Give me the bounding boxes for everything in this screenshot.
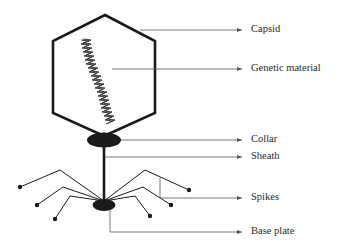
capsid-shape [53,15,155,136]
collar-shape [87,133,121,148]
label-collar: Collar [251,133,277,145]
bacteriophage-diagram [0,0,343,250]
label-base-plate: Base plate [251,225,294,237]
label-spikes: Spikes [251,191,279,203]
label-capsid: Capsid [251,23,280,35]
base-plate-shape [93,199,116,211]
genetic-material-coil [81,39,115,124]
label-genetic-material: Genetic material [251,62,321,74]
leader-lines [105,30,242,232]
label-sheath: Sheath [251,150,280,162]
